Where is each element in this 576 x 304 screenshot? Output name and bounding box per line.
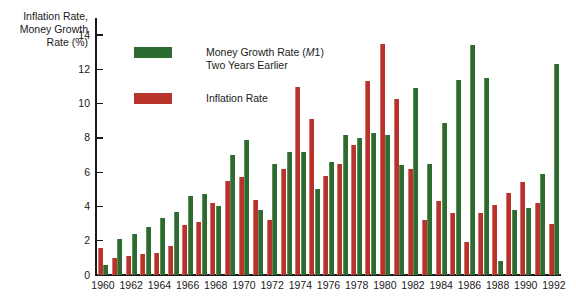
- bar-money-growth-1966: [188, 196, 193, 275]
- bar-inflation-1969: [225, 181, 230, 275]
- chart-legend: Money Growth Rate (M1)Two Years Earlier …: [134, 46, 404, 105]
- legend-label-money-growth: Money Growth Rate (M1)Two Years Earlier: [206, 46, 324, 71]
- bar-money-growth-1964: [160, 218, 165, 275]
- bar-money-growth-1980: [385, 135, 390, 275]
- legend-swatch-green-icon: [134, 47, 172, 58]
- x-tick-label-1992: 1992: [537, 280, 571, 291]
- bar-money-growth-1979: [371, 133, 376, 275]
- bar-inflation-1990: [520, 182, 525, 275]
- bar-group-1992: [549, 18, 560, 275]
- bar-inflation-1984: [436, 201, 441, 275]
- bar-inflation-1965: [168, 246, 173, 275]
- bar-money-growth-1963: [146, 227, 151, 275]
- bar-money-growth-1969: [230, 155, 235, 275]
- bar-inflation-1981: [394, 99, 399, 275]
- bar-group-1985: [450, 18, 461, 275]
- bar-inflation-1971: [253, 200, 258, 275]
- y-tick-label-14: 14: [60, 30, 90, 41]
- bar-group-1984: [436, 18, 447, 275]
- bar-inflation-1974: [295, 87, 300, 275]
- bar-inflation-1967: [196, 222, 201, 275]
- bar-money-growth-1977: [343, 135, 348, 275]
- y-tick-label-0: 0: [60, 270, 90, 281]
- bar-money-growth-1989: [512, 210, 517, 275]
- y-tick-label-8: 8: [60, 132, 90, 143]
- bar-money-growth-1974: [301, 152, 306, 275]
- bar-money-growth-1975: [315, 189, 320, 275]
- bar-money-growth-1981: [399, 165, 404, 275]
- bar-inflation-1991: [535, 203, 540, 275]
- bar-money-growth-1976: [329, 162, 334, 275]
- bar-money-growth-1970: [244, 140, 249, 275]
- bar-inflation-1986: [464, 242, 469, 275]
- bar-money-growth-1983: [427, 164, 432, 275]
- legend-swatch-red-icon: [134, 93, 172, 104]
- bar-inflation-1982: [408, 169, 413, 275]
- bar-money-growth-1973: [287, 152, 292, 275]
- bar-inflation-1988: [492, 205, 497, 275]
- legend-italic-symbol: M: [306, 46, 315, 58]
- bar-inflation-1964: [154, 253, 159, 275]
- bar-inflation-1983: [422, 220, 427, 275]
- bar-money-growth-1972: [272, 164, 277, 275]
- bar-inflation-1976: [323, 176, 328, 275]
- inflation-money-growth-bar-chart: Inflation Rate, Money Growth Rate (%) 02…: [0, 0, 576, 304]
- bar-inflation-1961: [112, 258, 117, 275]
- bar-inflation-1973: [281, 169, 286, 275]
- bar-money-growth-1967: [202, 194, 207, 275]
- bar-inflation-1962: [126, 256, 131, 275]
- bar-inflation-1985: [450, 213, 455, 275]
- bar-inflation-1960: [98, 248, 103, 275]
- bar-group-1960: [98, 18, 109, 275]
- bar-inflation-1992: [549, 224, 554, 275]
- bar-group-1989: [506, 18, 517, 275]
- bar-group-1991: [535, 18, 546, 275]
- bar-group-1986: [464, 18, 475, 275]
- bar-money-growth-1978: [357, 138, 362, 275]
- bar-money-growth-1988: [498, 261, 503, 275]
- bar-group-1987: [478, 18, 489, 275]
- legend-item-inflation: Inflation Rate: [134, 92, 404, 105]
- y-tick-label-12: 12: [60, 64, 90, 75]
- bar-money-growth-1991: [540, 174, 545, 275]
- bar-inflation-1989: [506, 193, 511, 275]
- bar-money-growth-1984: [442, 123, 447, 275]
- y-tick-label-4: 4: [60, 201, 90, 212]
- bar-inflation-1963: [140, 254, 145, 275]
- bar-money-growth-1987: [484, 78, 489, 275]
- bar-group-1961: [112, 18, 123, 275]
- bar-inflation-1975: [309, 119, 314, 275]
- bar-inflation-1987: [478, 213, 483, 275]
- bar-money-growth-1986: [470, 45, 475, 275]
- bar-inflation-1977: [337, 164, 342, 275]
- legend-label-inflation: Inflation Rate: [206, 92, 268, 105]
- bar-inflation-1972: [267, 220, 272, 275]
- bar-money-growth-1990: [526, 208, 531, 275]
- bar-money-growth-1960: [103, 265, 108, 275]
- bar-money-growth-1982: [413, 88, 418, 275]
- y-tick-label-2: 2: [60, 235, 90, 246]
- bar-money-growth-1962: [132, 234, 137, 275]
- bar-group-1990: [520, 18, 531, 275]
- bar-group-1983: [422, 18, 433, 275]
- bar-money-growth-1961: [117, 239, 122, 275]
- y-tick-label-10: 10: [60, 98, 90, 109]
- bar-group-1982: [408, 18, 419, 275]
- bar-inflation-1978: [351, 145, 356, 275]
- bar-money-growth-1968: [216, 206, 221, 275]
- bar-inflation-1979: [365, 81, 370, 275]
- bar-inflation-1970: [239, 177, 244, 275]
- bar-money-growth-1992: [554, 64, 559, 275]
- legend-item-money-growth: Money Growth Rate (M1)Two Years Earlier: [134, 46, 404, 71]
- bar-money-growth-1985: [456, 80, 461, 275]
- bar-inflation-1968: [210, 203, 215, 275]
- bar-group-1988: [492, 18, 503, 275]
- bar-inflation-1966: [182, 225, 187, 275]
- bar-money-growth-1965: [174, 212, 179, 275]
- bar-money-growth-1971: [258, 210, 263, 275]
- y-tick-label-6: 6: [60, 167, 90, 178]
